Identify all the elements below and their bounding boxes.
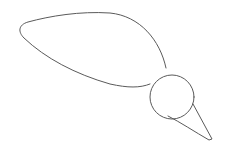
sketch-canvas xyxy=(0,0,228,150)
circle-shape xyxy=(150,75,194,119)
leaf-shape xyxy=(20,13,166,87)
